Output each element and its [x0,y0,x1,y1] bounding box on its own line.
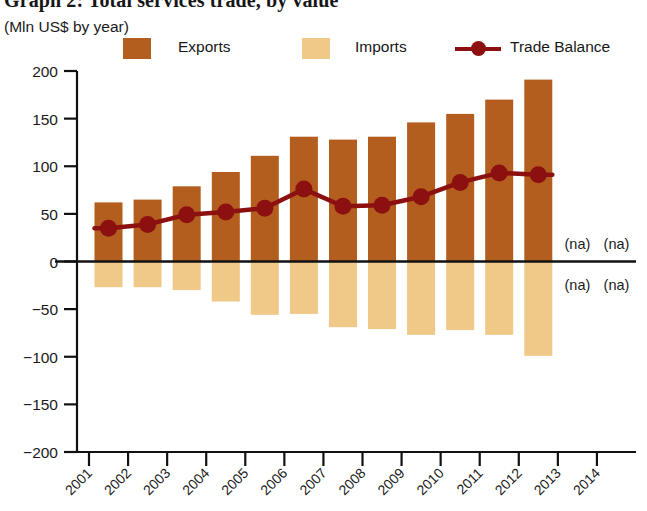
x-tick-label-2008: 2008 [335,465,368,498]
y-tick-label-150: 150 [32,111,58,128]
y-tick-label-0: 0 [49,254,58,271]
trade-balance-marker-2011 [491,164,508,181]
bar-imports-2006 [290,262,318,314]
y-tick-label-200: 200 [32,63,58,80]
y-tick-label--200: −200 [23,444,58,461]
x-axis-ticks: 2001200220032004200520062007200820092010… [62,452,603,498]
x-tick-label-2010: 2010 [413,465,446,498]
trade-balance-marker-2003 [178,206,195,223]
trade-balance-marker-2008 [374,197,391,214]
trade-balance-marker-2007 [335,198,352,215]
bars-group [95,80,553,356]
trade-balance-markers [100,164,547,236]
trade-balance-marker-2009 [413,188,430,205]
bar-imports-2004 [212,262,240,302]
na-label-2013-below: (na) [565,277,591,293]
na-label-2013-above: (na) [565,236,591,252]
y-tick-label-100: 100 [32,158,58,175]
x-tick-label-2013: 2013 [531,465,564,498]
x-tick-label-2005: 2005 [218,465,251,498]
trade-balance-marker-2004 [217,204,234,221]
x-tick-label-2014: 2014 [570,465,603,498]
bar-imports-2009 [407,262,435,335]
chart-page: Graph 2: Total services trade, by value … [0,0,647,511]
x-tick-label-2006: 2006 [257,465,290,498]
chart-plot-area: 200150100500−50−100−150−200 200120022003… [0,0,647,511]
x-tick-label-2002: 2002 [101,465,134,498]
bar-exports-2003 [173,186,201,261]
bar-exports-2006 [290,137,318,262]
trade-balance-marker-2006 [295,181,312,198]
na-label-2014-above: (na) [604,236,630,252]
x-tick-label-2004: 2004 [179,465,212,498]
y-tick-label--50: −50 [32,301,59,318]
x-tick-label-2001: 2001 [62,465,95,498]
trade-balance-marker-2012 [530,166,547,183]
bar-imports-2002 [134,262,162,288]
bar-imports-2005 [251,262,279,315]
x-tick-label-2003: 2003 [140,465,173,498]
x-tick-label-2011: 2011 [453,465,486,498]
trade-balance-marker-2005 [256,200,273,217]
bar-imports-2010 [446,262,474,331]
bar-imports-2001 [95,262,123,288]
bar-imports-2003 [173,262,201,291]
x-tick-label-2007: 2007 [296,465,329,498]
chart-svg: 200150100500−50−100−150−200 200120022003… [0,0,647,511]
bar-imports-2012 [524,262,552,356]
bar-imports-2008 [368,262,396,330]
x-tick-label-2009: 2009 [374,465,407,498]
na-labels-group: (na)(na)(na)(na) [565,236,630,293]
trade-balance-marker-2010 [452,174,469,191]
na-label-2014-below: (na) [604,277,630,293]
y-tick-label--150: −150 [23,396,58,413]
trade-balance-line [95,173,553,228]
bar-imports-2011 [485,262,513,335]
trade-balance-marker-2001 [100,220,117,237]
y-tick-label--100: −100 [23,349,58,366]
bar-imports-2007 [329,262,357,328]
trade-balance-marker-2002 [139,216,156,233]
y-tick-label-50: 50 [41,206,59,223]
x-tick-label-2012: 2012 [492,465,525,498]
y-axis-ticks: 200150100500−50−100−150−200 [23,63,77,461]
